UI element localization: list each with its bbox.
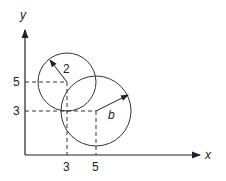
x-tick-5: 5 — [92, 160, 99, 174]
circles-diagram: y x 3 5 5 3 2 b — [0, 0, 226, 181]
y-axis-label: y — [20, 8, 26, 22]
y-tick-3: 3 — [13, 104, 20, 118]
diagram-graphics — [0, 0, 226, 181]
radius-2-label: 2 — [63, 62, 70, 76]
x-tick-3: 3 — [63, 160, 70, 174]
x-axis-label: x — [205, 148, 211, 162]
radius-b-label: b — [108, 108, 115, 122]
y-tick-5: 5 — [13, 75, 20, 89]
